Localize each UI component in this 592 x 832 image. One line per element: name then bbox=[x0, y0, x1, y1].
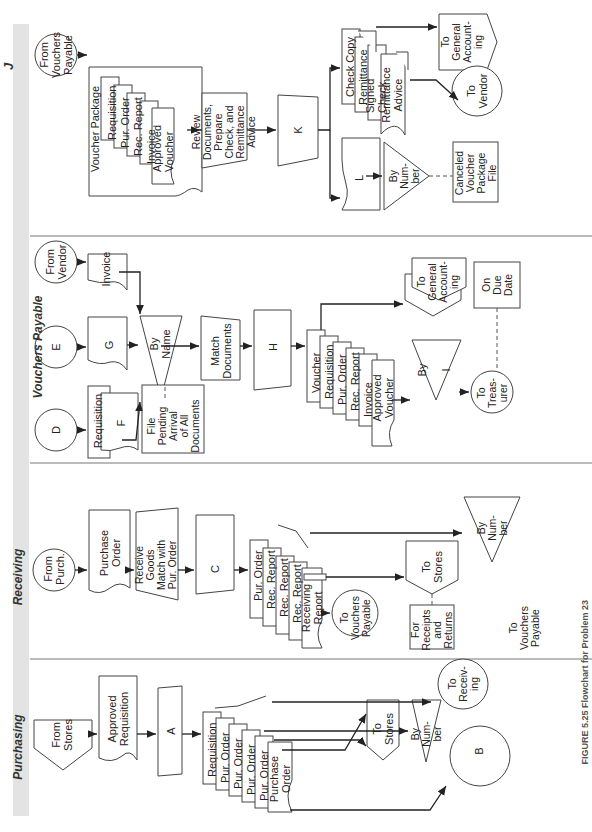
vp-doc-4: Rec. Report bbox=[348, 351, 362, 411]
to-treasurer-label: To Treas- urer bbox=[475, 373, 509, 413]
canceled-file-label: Canceled Voucher Package File bbox=[453, 145, 499, 201]
connector-b-label: B bbox=[470, 738, 488, 764]
doc-invoice-label: Invoice bbox=[99, 249, 113, 289]
check-doc-4: Remittance Advice bbox=[379, 65, 405, 125]
to-stores-p-label: To Stores bbox=[370, 707, 396, 751]
process-a-label: A bbox=[162, 718, 180, 744]
doc-requisition-label: Requisition bbox=[91, 391, 105, 451]
on-due-date-label: On Due Date bbox=[478, 262, 516, 308]
rec-doc-5: Receiving Report bbox=[300, 580, 324, 636]
review-documents-label: Review Documents, Prepare Check, and Rem… bbox=[202, 94, 246, 170]
from-vouchers-payable-label: From Vouchers Payable bbox=[36, 25, 76, 85]
for-receipts-label: For Receipts and Returns bbox=[414, 602, 450, 658]
pur-doc-4: Pur. Order bbox=[244, 735, 258, 795]
to-vouchers-payable-r-label: To Vouchers Payable bbox=[337, 595, 373, 641]
from-vendor-label: From Vendor bbox=[44, 242, 68, 282]
vp-doc-2: Requisition bbox=[322, 339, 336, 399]
rec-doc-3: Rec. Report bbox=[277, 557, 291, 617]
by-name-label: By Name bbox=[146, 324, 174, 364]
purchase-order-r-label: Purchase Order bbox=[97, 525, 123, 581]
to-vouchers-payable-p-label: To Vouchers Payable bbox=[506, 600, 542, 656]
pur-doc-2: Pur. Order bbox=[218, 723, 232, 783]
pur-doc-6: Purchase Order bbox=[267, 751, 293, 807]
by-number-p-label: By Num- ber bbox=[408, 714, 444, 754]
vp-doc-1: Voucher bbox=[309, 333, 323, 393]
process-k-label: K bbox=[288, 115, 308, 145]
by-number-j-label: By Num- ber bbox=[386, 156, 422, 196]
voucher-package-title: Voucher Package bbox=[88, 62, 102, 172]
flowchart-portrait: J Vouchers Payable Receiving Purchasing … bbox=[0, 0, 592, 832]
doc-l-label: L bbox=[349, 163, 369, 193]
check-doc-1: Check Copy bbox=[343, 33, 357, 97]
by-number-r-label: By Num- ber bbox=[474, 508, 510, 548]
from-stores-label: From Stores bbox=[49, 713, 75, 757]
vp-doc-3: Pur. Order bbox=[335, 345, 349, 405]
to-stores-r-label: To Stores bbox=[419, 545, 445, 589]
pur-doc-1: Requisition bbox=[205, 717, 219, 777]
process-c-label: C bbox=[206, 556, 224, 582]
rec-doc-2: Rec. Report bbox=[264, 549, 278, 609]
doc-f-label: F bbox=[112, 410, 130, 436]
package-doc-5: Approved Voucher bbox=[151, 112, 175, 172]
to-receiving-label: To Receiv- ing bbox=[445, 661, 481, 707]
package-doc-2: Pur. Order bbox=[118, 88, 132, 148]
lane-title-purchasing: Purchasing bbox=[11, 707, 25, 787]
rec-doc-1: Pur. Order bbox=[251, 541, 265, 601]
lane-title-receiving: Receiving bbox=[11, 537, 25, 617]
doc-g-label: G bbox=[100, 332, 118, 358]
process-h-label: H bbox=[264, 334, 282, 360]
connector-d-label: D bbox=[46, 417, 66, 443]
approved-requisition-label: Approved Requisition bbox=[105, 689, 131, 749]
file-pending-label: File Pending Arrival of All Documents bbox=[143, 391, 203, 461]
connector-e-label: E bbox=[46, 334, 66, 360]
from-purch-label: From Purch. bbox=[41, 549, 67, 589]
to-general-accounting-vp-label: To General Account- ing bbox=[416, 252, 460, 312]
vp-doc-6: Approved Voucher bbox=[371, 370, 395, 426]
by-i-label: By I bbox=[416, 350, 452, 390]
lane-title-vouchers-payable: Vouchers Payable bbox=[31, 287, 45, 407]
receive-goods-label: Receive Goods Match with Pur. Order bbox=[131, 535, 181, 595]
package-doc-1: Requisition bbox=[105, 80, 119, 140]
to-vendor-label: To Vendor bbox=[462, 66, 492, 116]
to-general-accounting-j-label: To General Account- ing bbox=[440, 16, 484, 68]
package-doc-3: Rec. Report bbox=[131, 96, 145, 156]
lane-header-strip bbox=[13, 24, 29, 816]
figure-caption: FIGURE 5.25 Flowchart for Problem 23 bbox=[580, 600, 590, 810]
match-documents-label: Match Documents bbox=[206, 326, 236, 376]
pur-doc-3: Pur. Order bbox=[231, 729, 245, 789]
